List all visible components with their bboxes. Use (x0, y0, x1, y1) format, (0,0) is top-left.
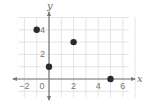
x-tick-label: 2 (71, 81, 76, 91)
data-point (70, 39, 76, 45)
x-tick-label: −2 (19, 81, 29, 91)
scatter-plot: x y −20246 24 (0, 0, 145, 107)
data-point (34, 27, 40, 33)
data-point (107, 76, 113, 82)
x-axis-label: x (137, 73, 143, 84)
y-axis-label: y (46, 0, 53, 11)
x-tick-label: 0 (39, 81, 44, 91)
y-axis-arrow-down-icon (47, 96, 51, 101)
data-point (46, 63, 52, 69)
y-axis-arrow-up-icon (47, 11, 51, 16)
x-tick-label: 4 (96, 81, 101, 91)
x-tick-labels: −20246 (19, 81, 125, 91)
x-tick-label: 6 (120, 81, 125, 91)
x-axis-arrow-left-icon (12, 77, 17, 81)
y-tick-label: 2 (40, 49, 45, 59)
y-tick-label: 4 (40, 25, 45, 35)
